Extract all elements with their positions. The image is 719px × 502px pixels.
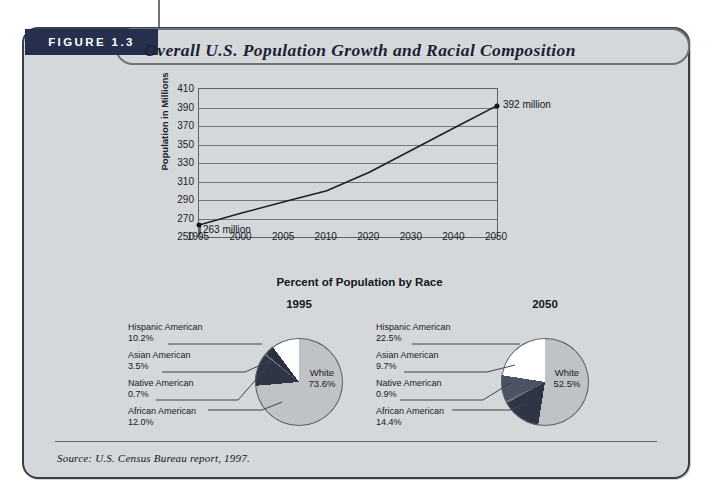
pie-1995-legend-native: Native American 0.7%: [128, 378, 194, 400]
pie-1995-legend-african: African American 12.0%: [128, 406, 196, 428]
source-divider: [55, 441, 657, 442]
top-tick-mark: [158, 0, 160, 29]
x-axis-tick: 2050: [485, 231, 507, 242]
line-series: [199, 89, 497, 237]
x-axis-tick: 2005: [272, 231, 294, 242]
pie-1995-legend-hispanic: Hispanic American 10.2%: [128, 322, 203, 344]
pie-2050-year: 2050: [532, 298, 558, 310]
start-callout: 263 million: [203, 224, 251, 235]
pie-2050-legend-african: African American 14.4%: [376, 406, 444, 428]
x-axis-tick: 2010: [315, 231, 337, 242]
line-chart-plot-area: [198, 88, 498, 238]
line-chart: Population in Millions 41039037035033031…: [150, 78, 530, 258]
x-axis-tick: 2020: [357, 231, 379, 242]
pie-1995-year: 1995: [286, 298, 312, 310]
pie-1995-center-label: White 73.6%: [309, 367, 336, 389]
pie-2050-legend-native: Native American 0.9%: [376, 378, 442, 400]
data-point-start: [197, 222, 202, 227]
y-axis-tick: 270: [150, 212, 194, 223]
end-callout: 392 million: [503, 99, 551, 110]
figure-root: FIGURE 1.3 Overall U.S. Population Growt…: [0, 0, 719, 502]
y-axis-tick: 410: [150, 83, 194, 94]
y-axis-tick: 310: [150, 175, 194, 186]
x-axis-tick: 2030: [400, 231, 422, 242]
source-note: Source: U.S. Census Bureau report, 1997.: [57, 452, 250, 464]
pie-2050-center-label: White 52.5%: [554, 367, 581, 389]
y-axis-tick: 370: [150, 120, 194, 131]
data-point-end: [495, 103, 500, 108]
pie-1995-legend-asian: Asian American 3.5%: [128, 350, 191, 372]
y-axis-tick: 330: [150, 157, 194, 168]
x-axis-tick: 2040: [442, 231, 464, 242]
figure-title: Overall U.S. Population Growth and Racia…: [60, 37, 660, 63]
y-axis-tick: 390: [150, 101, 194, 112]
pie-2050-legend-hispanic: Hispanic American 22.5%: [376, 322, 451, 344]
pie-2050-legend-asian: Asian American 9.7%: [376, 350, 439, 372]
y-axis-tick: 290: [150, 194, 194, 205]
y-axis-tick: 350: [150, 138, 194, 149]
pies-section-title: Percent of Population by Race: [0, 276, 719, 288]
